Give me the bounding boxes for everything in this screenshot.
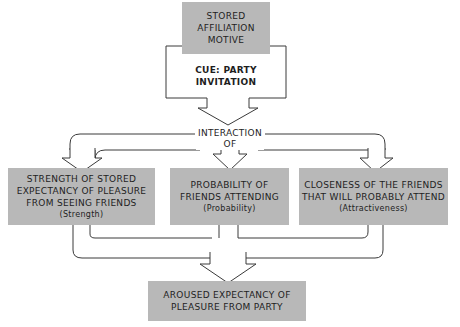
attractiveness-line-1: CLOSENESS OF THE FRIENDS bbox=[304, 179, 442, 191]
interaction-line-2: OF bbox=[196, 139, 264, 150]
attractiveness-line-2: THAT WILL PROBABLY ATTEND bbox=[302, 191, 445, 203]
strength-factor-box: STRENGTH OF STORED EXPECTANCY OF PLEASUR… bbox=[8, 168, 155, 225]
attractiveness-tag: (Attractiveness) bbox=[339, 203, 408, 215]
attractiveness-factor-box: CLOSENESS OF THE FRIENDS THAT WILL PROBA… bbox=[299, 168, 448, 225]
probability-line-1: PROBABILITY OF bbox=[191, 179, 269, 191]
strength-tag: (Strength) bbox=[60, 209, 104, 221]
interaction-line-1: INTERACTION bbox=[196, 128, 264, 139]
cue-line-2: INVITATION bbox=[166, 76, 286, 88]
stored-affiliation-motive-box: STORED AFFILIATION MOTIVE bbox=[182, 2, 270, 54]
result-line-2: PLEASURE FROM PARTY bbox=[171, 301, 283, 313]
aroused-expectancy-box: AROUSED EXPECTANCY OF PLEASURE FROM PART… bbox=[148, 281, 306, 321]
top-box-line-3: MOTIVE bbox=[208, 34, 245, 46]
probability-tag: (Probability) bbox=[203, 203, 255, 215]
probability-line-2: FRIENDS ATTENDING bbox=[180, 191, 279, 203]
probability-factor-box: PROBABILITY OF FRIENDS ATTENDING (Probab… bbox=[170, 168, 289, 225]
cue-line-1: CUE: PARTY bbox=[166, 64, 286, 76]
cue-label: CUE: PARTY INVITATION bbox=[166, 64, 286, 88]
strength-line-3: FROM SEEING FRIENDS bbox=[26, 197, 136, 209]
top-box-line-2: AFFILIATION bbox=[197, 22, 255, 34]
result-line-1: AROUSED EXPECTANCY OF bbox=[163, 289, 290, 301]
strength-line-1: STRENGTH OF STORED bbox=[27, 173, 136, 185]
interaction-label: INTERACTION OF bbox=[196, 128, 264, 150]
strength-line-2: EXPECTANCY OF PLEASURE bbox=[17, 185, 147, 197]
top-box-line-1: STORED bbox=[207, 10, 246, 22]
